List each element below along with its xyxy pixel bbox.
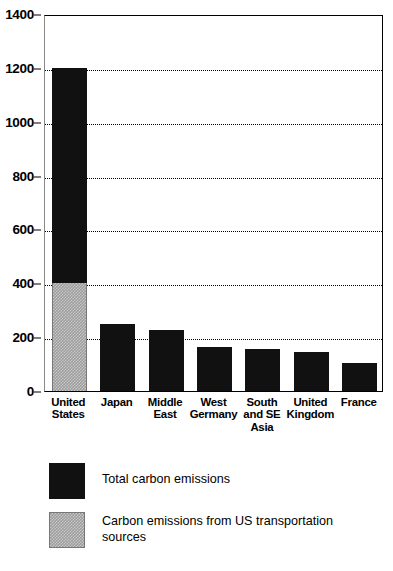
x-axis-label-line: Middle bbox=[141, 396, 189, 408]
x-axis-label-line: East bbox=[141, 408, 189, 420]
legend-label: Total carbon emissions bbox=[102, 463, 230, 488]
x-axis-label-united-states: UnitedStates bbox=[44, 396, 92, 421]
y-axis: 0200400600800100012001400 bbox=[0, 0, 44, 400]
bar-segment-total bbox=[149, 330, 184, 391]
x-axis-label-japan: Japan bbox=[92, 396, 140, 408]
bar-segment-total bbox=[245, 349, 280, 391]
bar-france bbox=[342, 363, 377, 391]
bars-layer bbox=[45, 16, 382, 391]
y-axis-tick-label: 600 bbox=[12, 224, 34, 238]
plot-area bbox=[44, 15, 383, 392]
bar-segment-total bbox=[197, 347, 232, 391]
y-axis-tick-label: 0 bbox=[27, 385, 34, 399]
y-axis-tick-mark bbox=[34, 284, 41, 285]
y-axis-tick-mark bbox=[34, 392, 41, 393]
bar-segment-total bbox=[342, 363, 377, 391]
x-axis-label-line: Germany bbox=[189, 408, 237, 420]
y-axis-tick-mark bbox=[34, 68, 41, 69]
y-axis-tick-mark bbox=[34, 15, 41, 16]
y-axis-tick-label: 800 bbox=[12, 170, 34, 184]
x-axis-label-line: States bbox=[44, 408, 92, 420]
x-axis-label-line: South bbox=[238, 396, 286, 408]
legend-swatch-black bbox=[49, 463, 85, 499]
bar-south-and-se-asia bbox=[245, 349, 280, 391]
x-axis-label-line: Asia bbox=[238, 421, 286, 433]
y-axis-tick-label: 1200 bbox=[5, 62, 34, 76]
x-axis-label-line: West bbox=[189, 396, 237, 408]
legend-label: Carbon emissions from US transportation … bbox=[102, 512, 352, 545]
x-axis-label-line: Kingdom bbox=[286, 408, 334, 420]
y-axis-tick-mark bbox=[34, 230, 41, 231]
x-axis-label-middle-east: MiddleEast bbox=[141, 396, 189, 421]
x-axis-label-line: France bbox=[335, 396, 383, 408]
y-axis-tick-mark bbox=[34, 176, 41, 177]
x-axis-label-south-and-se-asia: Southand SEAsia bbox=[238, 396, 286, 433]
y-axis-tick-label: 400 bbox=[12, 278, 34, 292]
x-axis: UnitedStatesJapanMiddleEastWestGermanySo… bbox=[44, 396, 383, 456]
x-axis-label-line: United bbox=[286, 396, 334, 408]
y-axis-tick-mark bbox=[34, 122, 41, 123]
bar-united-kingdom bbox=[294, 352, 329, 391]
y-axis-tick-label: 1400 bbox=[5, 8, 34, 22]
x-axis-label-line: and SE bbox=[238, 408, 286, 420]
bar-japan bbox=[100, 324, 135, 391]
x-axis-label-line: United bbox=[44, 396, 92, 408]
bar-segment-us-transportation bbox=[52, 283, 87, 391]
x-axis-label-line: Japan bbox=[92, 396, 140, 408]
bar-segment-total bbox=[100, 324, 135, 391]
legend-item: Total carbon emissions bbox=[49, 463, 230, 499]
bar-west-germany bbox=[197, 347, 232, 391]
legend-item: Carbon emissions from US transportation … bbox=[49, 512, 352, 548]
bar-united-states bbox=[52, 68, 87, 391]
y-axis-tick-label: 200 bbox=[12, 331, 34, 345]
y-axis-tick-mark bbox=[34, 338, 41, 339]
bar-middle-east bbox=[149, 330, 184, 391]
x-axis-label-france: France bbox=[335, 396, 383, 408]
x-axis-label-west-germany: WestGermany bbox=[189, 396, 237, 421]
legend-swatch-gray bbox=[49, 512, 85, 548]
bar-segment-total bbox=[294, 352, 329, 391]
y-axis-tick-label: 1000 bbox=[5, 116, 34, 130]
carbon-emissions-bar-chart: 0200400600800100012001400 UnitedStatesJa… bbox=[0, 0, 393, 571]
x-axis-label-united-kingdom: UnitedKingdom bbox=[286, 396, 334, 421]
